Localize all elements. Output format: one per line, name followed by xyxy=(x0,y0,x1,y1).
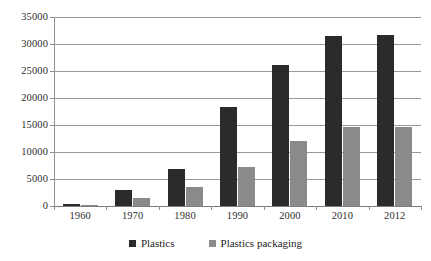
y-axis-tick-label: 0 xyxy=(0,201,48,212)
x-axis-tick xyxy=(159,206,160,210)
bar-group xyxy=(54,17,106,206)
bar-chart: 05000100001500020000250003000035000 1960… xyxy=(0,0,431,261)
bar-1960-plastics xyxy=(63,204,80,206)
x-axis-tick xyxy=(54,206,55,210)
x-axis-tick-label-1990: 1990 xyxy=(211,210,263,222)
x-axis-tick-label-2000: 2000 xyxy=(264,210,316,222)
bar-group xyxy=(106,17,158,206)
y-axis-tick-label: 5000 xyxy=(0,174,48,185)
x-axis-tick xyxy=(316,206,317,210)
bar-1980-plastics xyxy=(168,169,185,206)
bar-1970-plastics xyxy=(115,190,132,206)
bar-1960-plastics-packaging xyxy=(81,205,98,206)
legend-item-plastics-packaging[interactable]: Plastics packaging xyxy=(209,237,303,249)
x-axis-tick-label-2010: 2010 xyxy=(316,210,368,222)
bar-group xyxy=(316,17,368,206)
chart-legend: PlasticsPlastics packaging xyxy=(0,237,431,249)
bar-1990-plastics xyxy=(220,107,237,206)
x-axis-tick-label-2012: 2012 xyxy=(369,210,421,222)
y-axis-tick-label: 10000 xyxy=(0,147,48,158)
x-axis-tick xyxy=(211,206,212,210)
legend-swatch-icon xyxy=(129,240,136,247)
x-axis-labels: 1960197019801990200020102012 xyxy=(54,210,421,228)
bar-1970-plastics-packaging xyxy=(133,198,150,206)
bar-2010-plastics-packaging xyxy=(343,127,360,206)
y-axis-tick-label: 20000 xyxy=(0,93,48,104)
x-axis-tick xyxy=(264,206,265,210)
bar-2000-plastics-packaging xyxy=(290,141,307,206)
bar-1980-plastics-packaging xyxy=(186,187,203,206)
bar-group xyxy=(211,17,263,206)
gridline xyxy=(54,206,421,207)
y-axis-tick-label: 25000 xyxy=(0,66,48,77)
legend-item-plastics[interactable]: Plastics xyxy=(129,237,175,249)
x-axis-tick-label-1970: 1970 xyxy=(106,210,158,222)
bar-2010-plastics xyxy=(325,36,342,206)
x-axis-tick xyxy=(106,206,107,210)
y-axis-labels: 05000100001500020000250003000035000 xyxy=(0,0,48,261)
bar-group xyxy=(159,17,211,206)
y-axis-tick-label: 35000 xyxy=(0,12,48,23)
legend-label: Plastics xyxy=(141,237,175,249)
bar-2012-plastics xyxy=(377,35,394,206)
bar-group xyxy=(369,17,421,206)
bar-2000-plastics xyxy=(272,65,289,206)
legend-label: Plastics packaging xyxy=(221,237,303,249)
x-axis-tick xyxy=(421,206,422,210)
x-axis-tick xyxy=(369,206,370,210)
x-axis-tick-label-1980: 1980 xyxy=(159,210,211,222)
x-axis-tick-label-1960: 1960 xyxy=(54,210,106,222)
bar-2012-plastics-packaging xyxy=(395,127,412,206)
bar-1990-plastics-packaging xyxy=(238,167,255,206)
legend-swatch-icon xyxy=(209,240,216,247)
plot-area xyxy=(54,17,421,206)
y-axis-tick-label: 30000 xyxy=(0,39,48,50)
y-axis-tick-label: 15000 xyxy=(0,120,48,131)
bar-group xyxy=(264,17,316,206)
